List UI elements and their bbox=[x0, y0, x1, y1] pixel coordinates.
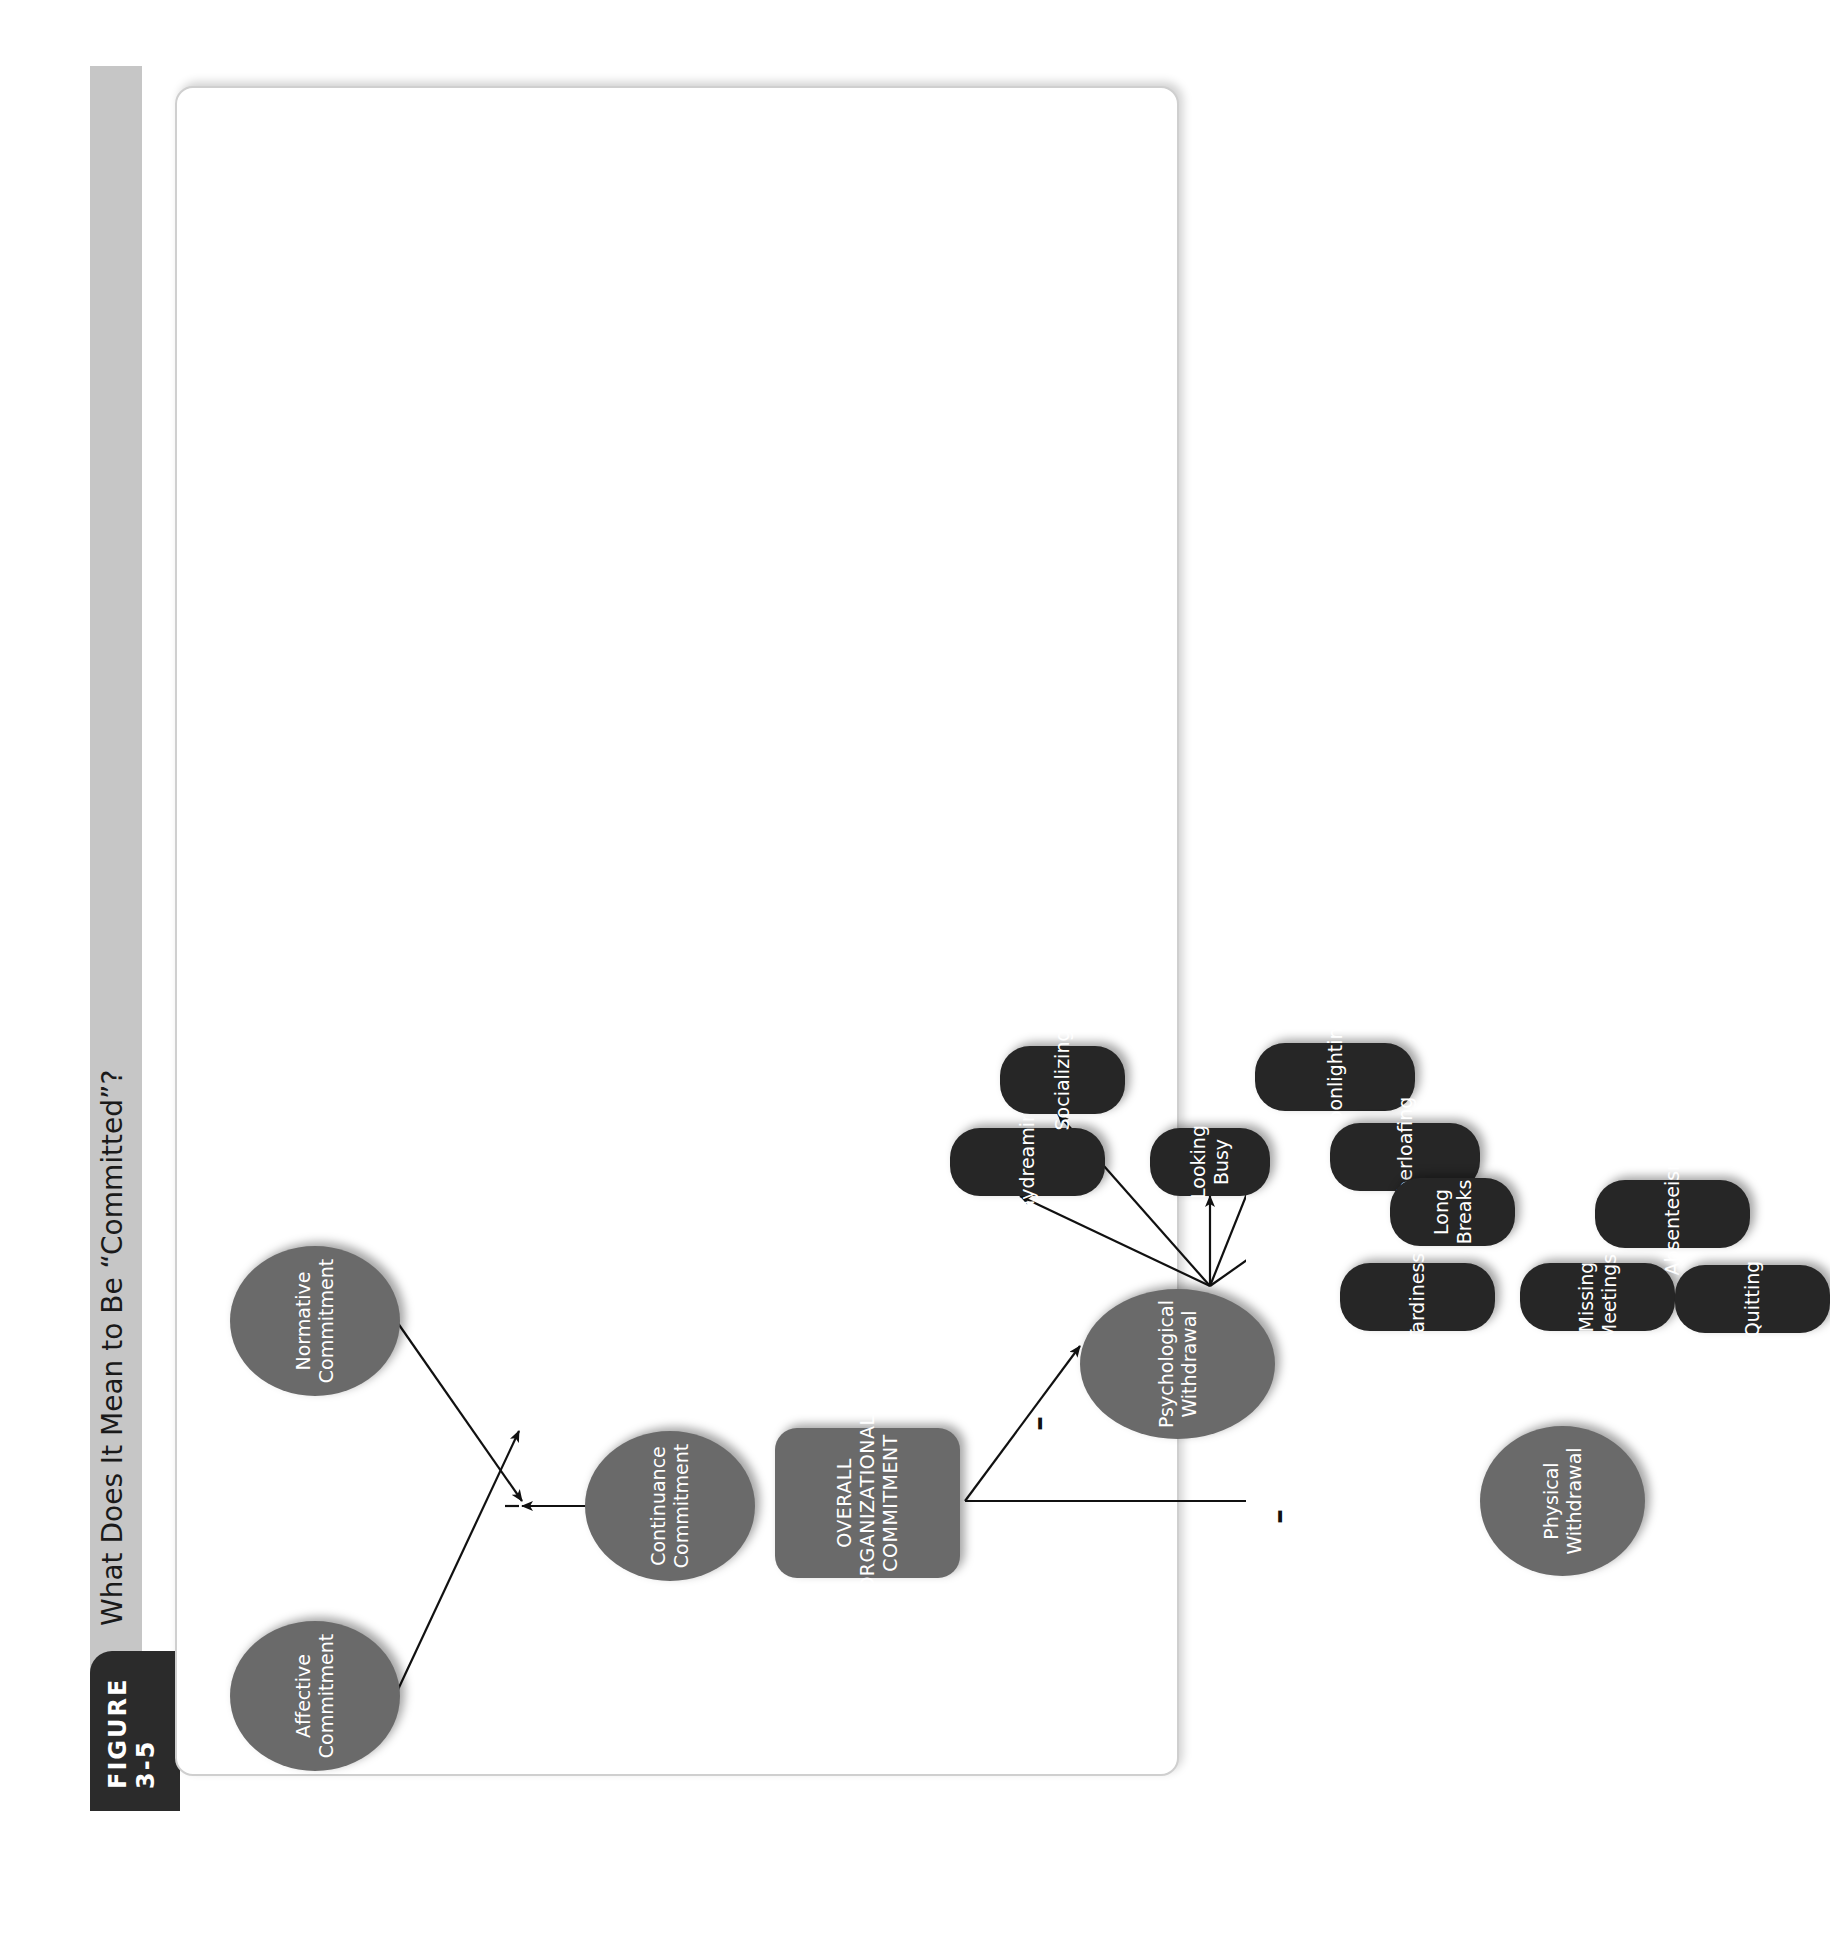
node-physical-withdrawal: Physical Withdrawal bbox=[1480, 1426, 1645, 1576]
node-continuance-commitment: Continuance Commitment bbox=[585, 1431, 755, 1581]
leaf-moonlighting: Moonlighting bbox=[1255, 1043, 1415, 1111]
figure-title: What Does It Mean to Be “Committed”? bbox=[96, 1070, 129, 1626]
leaf-quitting: Quitting bbox=[1675, 1265, 1830, 1333]
minus-sign-overall-psychological: – bbox=[1020, 1416, 1055, 1431]
node-normative-commitment: Normative Commitment bbox=[230, 1246, 400, 1396]
node-psychological-withdrawal: Psychological Withdrawal bbox=[1080, 1289, 1275, 1439]
node-overall-organizational-commitment-box: OVERALL ORGANIZATIONAL COMMITMENT bbox=[775, 1428, 960, 1578]
figure-label: FIGURE 3-5 bbox=[90, 1651, 180, 1811]
leaf-missing-meetings: Missing Meetings bbox=[1520, 1263, 1675, 1331]
minus-sign-overall-physical: – bbox=[1260, 1509, 1295, 1524]
leaf-daydreaming: Daydreaming bbox=[950, 1128, 1105, 1196]
leaf-long-breaks: Long Breaks bbox=[1390, 1178, 1515, 1246]
node-affective-commitment: Affective Commitment bbox=[230, 1621, 400, 1771]
leaf-looking-busy: Looking Busy bbox=[1150, 1128, 1270, 1196]
edge-psych-cyberloafing bbox=[1210, 1191, 1246, 1286]
leaf-absenteeism: Absenteeism bbox=[1595, 1180, 1750, 1248]
leaf-tardiness: Tardiness bbox=[1340, 1263, 1495, 1331]
leaf-socializing: Socializing bbox=[1000, 1046, 1125, 1114]
